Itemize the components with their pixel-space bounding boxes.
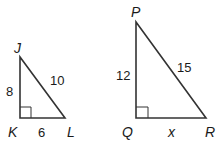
triangle-jkl: J K L 8 6 10 xyxy=(6,40,75,140)
side-length-kl: 6 xyxy=(38,125,45,140)
vertex-label-j: J xyxy=(13,40,22,56)
side-length-pr: 15 xyxy=(177,60,191,75)
right-angle-marker-k xyxy=(20,107,31,118)
side-length-qr: x xyxy=(167,124,176,140)
triangle-pqr: P Q R 12 x 15 xyxy=(116,4,215,140)
right-angle-marker-q xyxy=(136,107,148,118)
vertex-label-p: P xyxy=(131,4,141,20)
vertex-label-k: K xyxy=(8,124,18,140)
side-length-jk: 8 xyxy=(6,84,13,99)
vertex-label-q: Q xyxy=(122,124,133,140)
vertex-label-r: R xyxy=(205,124,215,140)
similar-triangles-diagram: J K L 8 6 10 P Q R 12 x 15 xyxy=(0,0,219,145)
side-length-pq: 12 xyxy=(116,68,130,83)
side-length-jl: 10 xyxy=(50,73,64,88)
vertex-label-l: L xyxy=(67,124,75,140)
triangle-pqr-shape xyxy=(136,22,206,118)
